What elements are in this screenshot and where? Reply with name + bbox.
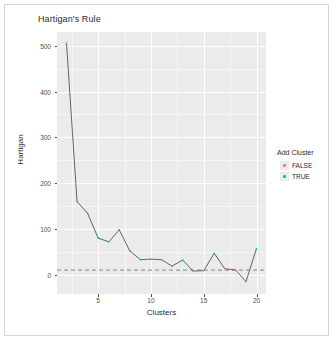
x-tick-label: 5: [96, 297, 100, 304]
y-tick-label: 0: [47, 271, 51, 278]
data-point: [161, 259, 163, 261]
data-point: [108, 241, 110, 243]
y-axis-tick-labels: 0100200300400500: [25, 32, 51, 294]
data-point: [182, 259, 184, 261]
legend-dot-icon: [283, 164, 285, 166]
data-point: [118, 229, 120, 231]
legend-item-label: TRUE: [292, 173, 310, 180]
x-tick-label: 20: [253, 297, 260, 304]
data-point: [140, 259, 142, 261]
data-line-series: [57, 32, 266, 294]
legend-key-icon: [280, 172, 289, 181]
y-axis-label: Hartigan: [16, 90, 25, 210]
x-axis-label: Clusters: [57, 308, 266, 317]
y-tick-label: 400: [40, 88, 51, 95]
y-tick-label: 200: [40, 180, 51, 187]
y-tick-label: 100: [40, 225, 51, 232]
data-point: [256, 248, 258, 250]
data-point: [150, 258, 152, 260]
data-point: [171, 265, 173, 267]
page-title: Hartigan's Rule: [38, 14, 101, 24]
legend-key-icon: [280, 161, 289, 170]
data-point: [129, 250, 131, 252]
data-point: [203, 270, 205, 272]
legend: Add Cluster FALSETRUE: [277, 149, 329, 182]
legend-items: FALSETRUE: [277, 160, 329, 182]
x-tick-label: 10: [147, 297, 154, 304]
y-tick-label: 300: [40, 134, 51, 141]
x-tick-label: 15: [200, 297, 207, 304]
chart-frame: Hartigan's Rule Hartigan 010020030040050…: [4, 4, 329, 336]
plot-panel: [57, 32, 266, 294]
legend-item-false[interactable]: FALSE: [280, 160, 329, 171]
data-point: [97, 237, 99, 239]
legend-title: Add Cluster: [277, 149, 329, 156]
data-point: [87, 213, 89, 215]
legend-item-label: FALSE: [292, 162, 312, 169]
data-point: [235, 269, 237, 271]
series-line-hartigan: [67, 43, 257, 281]
legend-item-true[interactable]: TRUE: [280, 171, 329, 182]
legend-dot-icon: [283, 175, 285, 177]
y-tick-label: 500: [40, 42, 51, 49]
data-point: [66, 43, 68, 45]
data-point: [76, 201, 78, 203]
data-point: [213, 252, 215, 254]
data-point: [192, 270, 194, 272]
data-point: [224, 268, 226, 270]
data-point: [245, 281, 247, 283]
